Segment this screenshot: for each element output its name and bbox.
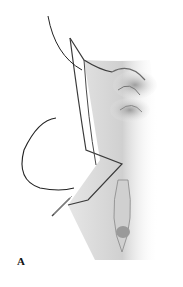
- surgical-illustration: [0, 0, 183, 287]
- illustration-drawing: [0, 0, 183, 287]
- panel-label: A: [17, 255, 25, 267]
